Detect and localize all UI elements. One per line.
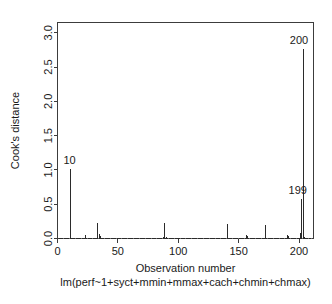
chart-subtitle: lm(perf~1+syct+mmin+mmax+cach+chmin+chma… bbox=[60, 276, 310, 288]
point-label: 200 bbox=[290, 34, 308, 46]
y-tick-label: 2.5 bbox=[42, 59, 54, 74]
x-tick-label: 0 bbox=[54, 245, 60, 257]
y-axis-title: Cook's distance bbox=[9, 92, 21, 169]
point-label: 10 bbox=[63, 154, 75, 166]
point-label: 199 bbox=[289, 184, 307, 196]
cooks-distance-plot: 0.00.51.01.52.02.53.00501001502001019920… bbox=[0, 0, 332, 304]
y-tick-label: 1.0 bbox=[42, 162, 54, 177]
x-tick-label: 200 bbox=[290, 245, 308, 257]
x-tick-label: 150 bbox=[229, 245, 247, 257]
y-tick-label: 0.0 bbox=[42, 231, 54, 246]
y-tick-label: 1.5 bbox=[42, 128, 54, 143]
chart-canvas: 0.00.51.01.52.02.53.00501001502001019920… bbox=[0, 0, 332, 304]
y-tick-label: 3.0 bbox=[42, 25, 54, 40]
plot-frame bbox=[58, 23, 314, 239]
x-tick-label: 100 bbox=[169, 245, 187, 257]
y-tick-label: 0.5 bbox=[42, 197, 54, 212]
y-tick-label: 2.0 bbox=[42, 94, 54, 109]
x-axis-title: Observation number bbox=[136, 262, 236, 274]
spike-series bbox=[60, 49, 311, 238]
x-tick-label: 50 bbox=[112, 245, 124, 257]
